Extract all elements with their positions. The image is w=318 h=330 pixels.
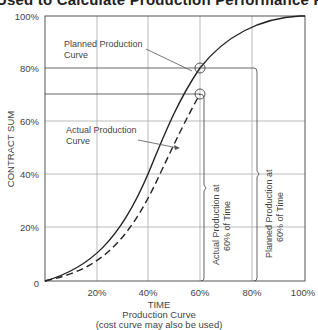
actual-production-curve (45, 94, 200, 281)
x-tick-80: 80% (242, 287, 262, 298)
production-chart: Planned Production Curve Actual Producti… (0, 0, 318, 330)
actual-at-60-label-2: 60% of Time (222, 201, 232, 251)
actual-curve-label-1: Actual Production (66, 125, 137, 135)
y-tick-100: 100% (15, 11, 40, 22)
y-tick-0: 0 (34, 278, 39, 289)
y-tick-60: 60% (20, 116, 40, 127)
x-tick-20: 20% (87, 287, 107, 298)
y-tick-20: 20% (20, 222, 40, 233)
planned-at-60-label-2: 60% of Time (275, 192, 285, 242)
x-tick-40: 40% (138, 287, 158, 298)
actual-leader-arrow (174, 145, 180, 150)
actual-leader-line (138, 140, 178, 148)
reference-lines (45, 68, 200, 94)
x-tick-60: 60% (190, 287, 210, 298)
actual-curve-label-2: Curve (66, 136, 90, 146)
x-tick-100: 100% (291, 287, 316, 298)
planned-curve-label-2: Curve (64, 50, 88, 60)
planned-at-60-label-1: Planned Production at (264, 169, 274, 258)
actual-at-60-label-1: Actual Production at (211, 184, 221, 265)
planned-curve-label-1: Planned Production (64, 39, 143, 49)
actual-bracket (200, 94, 206, 281)
y-axis-label: CONTRACT SUM (5, 111, 16, 187)
y-tick-40: 40% (20, 169, 40, 180)
y-tick-80: 80% (20, 63, 40, 74)
caption-line-2: (cost curve may also be used) (0, 319, 318, 330)
